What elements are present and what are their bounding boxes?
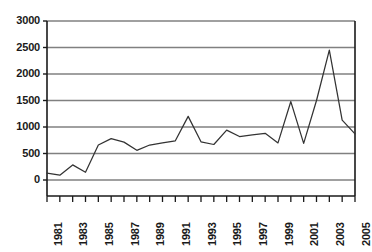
x-axis-tick-label: 1993	[206, 222, 218, 246]
x-axis-tick-label: 1985	[103, 222, 115, 246]
x-axis-ticks-group	[47, 196, 355, 202]
x-axis-tick-label: 1981	[52, 222, 64, 246]
x-axis-tick-label: 1999	[283, 222, 295, 246]
x-axis-tick-label: 2003	[334, 222, 346, 246]
x-axis-tick-label: 2005	[360, 222, 372, 246]
x-axis-tick-label: 1989	[154, 222, 166, 246]
x-axis-tick-label: 1995	[231, 222, 243, 246]
data-series-line	[47, 50, 355, 175]
x-axis-tick-label: 1983	[77, 222, 89, 246]
y-axis-tick-label: 0	[34, 173, 40, 185]
y-axis-tick-label: 500	[22, 147, 40, 159]
y-axis-tick-label: 3000	[16, 14, 40, 26]
x-axis-tick-label: 1997	[257, 222, 269, 246]
x-axis-tick-label: 1987	[129, 222, 141, 246]
y-axis-tick-label: 1500	[16, 94, 40, 106]
x-axis-tick-label: 2001	[308, 222, 320, 246]
y-axis-tick-label: 2500	[16, 41, 40, 53]
x-axis-tick-label: 1991	[180, 222, 192, 246]
y-axis-tick-label: 1000	[16, 120, 40, 132]
y-axis-tick-label: 2000	[16, 67, 40, 79]
